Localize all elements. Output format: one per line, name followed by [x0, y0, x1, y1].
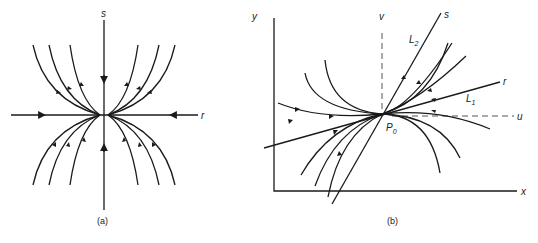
L1-label: L1 [466, 93, 476, 106]
figure: s r (a) y x v u s r L2 L1 P0 (b) [0, 0, 538, 243]
caption-a: (a) [97, 216, 108, 226]
axis-x-label: x [520, 186, 527, 197]
line-s-label: s [444, 9, 449, 20]
L2-label: L2 [409, 34, 419, 47]
panel-a [11, 20, 198, 210]
axis-s-label: s [101, 8, 106, 19]
caption-b: (b) [387, 216, 398, 226]
axis-r-label: r [201, 110, 205, 121]
P0-label: P0 [386, 122, 397, 135]
axis-y-label: y [251, 11, 258, 22]
line-r-label: r [503, 76, 507, 87]
line-u-label: u [517, 111, 523, 122]
line-v-label: v [379, 11, 385, 22]
panel-b [264, 13, 517, 204]
